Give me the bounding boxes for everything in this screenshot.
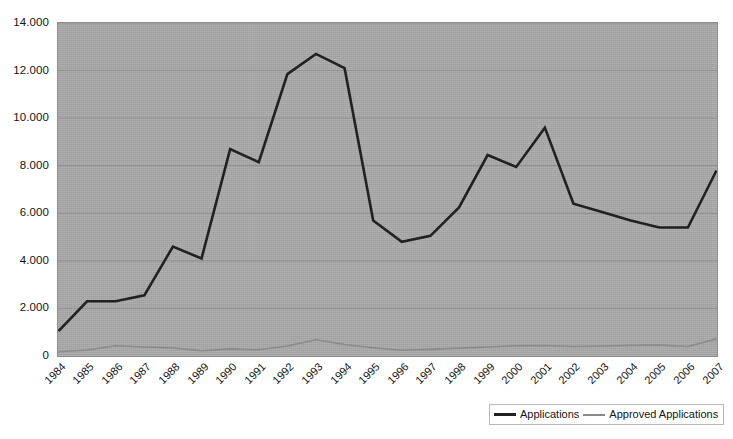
line-chart: 14.00012.00010.0008.0006.0004.0002.0000 … xyxy=(0,0,733,439)
x-axis-tick-label: 1994 xyxy=(324,361,353,390)
y-axis-tick-label: 6.000 xyxy=(0,207,56,218)
y-axis-tick-label: 10.000 xyxy=(0,112,56,123)
x-axis-tick-label: 1990 xyxy=(210,361,239,390)
x-axis-tick-label: 2000 xyxy=(496,361,525,390)
gridlines xyxy=(58,23,717,308)
x-axis-tick-label: 1997 xyxy=(410,361,439,390)
plot-area xyxy=(57,22,718,357)
legend-entry: Approved Applications xyxy=(583,409,718,420)
x-axis-tick-label: 1999 xyxy=(467,361,496,390)
x-axis-tick-label: 2004 xyxy=(610,361,639,390)
chart-legend: ApplicationsApproved Applications xyxy=(489,404,724,425)
x-axis-tick-label: 2005 xyxy=(639,361,668,390)
x-axis-tick-label: 1993 xyxy=(296,361,325,390)
x-axis-tick-label: 1987 xyxy=(124,361,153,390)
legend-label: Applications xyxy=(520,409,579,420)
line-swatch-dark xyxy=(494,413,516,416)
legend-entry: Applications xyxy=(494,409,579,420)
x-axis-tick-label: 2001 xyxy=(525,361,554,390)
legend-label: Approved Applications xyxy=(609,409,718,420)
y-axis-tick-label: 12.000 xyxy=(0,64,56,75)
x-axis-tick-label: 1984 xyxy=(38,361,67,390)
y-axis-tick-label: 4.000 xyxy=(0,254,56,265)
x-axis-tick-label: 2007 xyxy=(696,361,725,390)
series-line xyxy=(59,54,717,331)
x-axis-tick-label: 1986 xyxy=(95,361,124,390)
x-axis-tick-label: 1988 xyxy=(153,361,182,390)
x-axis-tick-label: 2003 xyxy=(582,361,611,390)
x-axis-tick-label: 2002 xyxy=(553,361,582,390)
x-axis-tick-label: 1985 xyxy=(67,361,96,390)
plot-svg xyxy=(58,23,717,356)
x-axis-tick-label: 1998 xyxy=(439,361,468,390)
line-swatch-gray xyxy=(583,414,605,416)
x-axis-tick-label: 1991 xyxy=(239,361,268,390)
x-axis-tick-label: 1995 xyxy=(353,361,382,390)
x-axis-tick-label: 1989 xyxy=(181,361,210,390)
x-axis-tick-label: 1996 xyxy=(382,361,411,390)
y-axis-tick-label: 8.000 xyxy=(0,159,56,170)
series-line xyxy=(59,339,717,352)
series-lines xyxy=(59,54,717,352)
y-axis-tick-label: 2.000 xyxy=(0,302,56,313)
x-axis-tick-label: 1992 xyxy=(267,361,296,390)
x-axis-tick-label: 2006 xyxy=(668,361,697,390)
y-axis-tick-label: 14.000 xyxy=(0,17,56,28)
